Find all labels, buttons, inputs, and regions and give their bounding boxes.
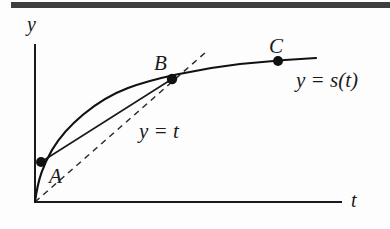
point-A-marker bbox=[36, 157, 46, 167]
y-axis-label: y bbox=[27, 14, 36, 34]
diagram-canvas bbox=[0, 0, 390, 229]
dashed-line-equation-label: y = t bbox=[139, 121, 179, 142]
curve-equation-label: y = s(t) bbox=[296, 70, 358, 91]
point-B-label: B bbox=[154, 53, 167, 74]
point-B-marker bbox=[167, 74, 177, 84]
t-axis-label: t bbox=[351, 190, 357, 210]
point-A-label: A bbox=[49, 166, 62, 187]
point-C-label: C bbox=[269, 36, 283, 57]
figure-container: y t A B C y = s(t) y = t bbox=[0, 0, 390, 229]
